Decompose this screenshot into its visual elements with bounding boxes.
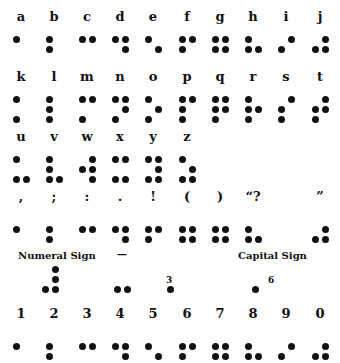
braille-cell — [77, 333, 97, 363]
braille-character: . — [105, 190, 135, 246]
braille-dot-4 — [222, 36, 229, 43]
braille-character: 0 — [305, 307, 335, 363]
braille-cell — [243, 36, 263, 66]
braille-dot-3 — [46, 116, 53, 123]
apostrophe-braille — [165, 266, 185, 296]
braille-cell — [11, 36, 31, 66]
braille-cell — [177, 36, 197, 66]
braille-dot-6 — [189, 176, 196, 183]
braille-dot-1 — [212, 36, 219, 43]
braille-dot-5 — [189, 343, 196, 350]
capital-number-label: 6 — [268, 275, 274, 285]
braille-dot-1 — [13, 96, 20, 103]
braille-dot-3 — [167, 286, 174, 293]
braille-dot-5 — [222, 106, 229, 113]
braille-character: , — [6, 190, 36, 246]
character-label: 2 — [39, 307, 69, 321]
braille-dot-3 — [212, 236, 219, 243]
braille-dot-3 — [46, 236, 53, 243]
character-label: i — [271, 10, 301, 24]
character-label — [271, 190, 301, 204]
character-label: h — [238, 10, 268, 24]
character-label: s — [271, 70, 301, 84]
braille-cell — [243, 216, 263, 246]
braille-dot-2 — [312, 46, 319, 53]
braille-dot-5 — [322, 106, 329, 113]
braille-dot-5 — [255, 106, 262, 113]
braille-dot-3 — [278, 353, 285, 360]
braille-dot-2 — [212, 46, 219, 53]
braille-dot-1 — [13, 36, 20, 43]
character-label: ; — [39, 190, 69, 204]
character-label: : — [72, 190, 102, 204]
braille-dot-4 — [155, 156, 162, 163]
braille-dot-5 — [89, 343, 96, 350]
braille-dot-2 — [145, 226, 152, 233]
braille-dot-3 — [13, 176, 20, 183]
braille-cell — [240, 266, 260, 296]
braille-cell — [110, 36, 130, 66]
braille-dot-2 — [79, 226, 86, 233]
braille-cell — [44, 216, 64, 246]
character-label: k — [6, 70, 36, 84]
character-label: 5 — [138, 307, 168, 321]
braille-dot-6 — [122, 236, 129, 243]
braille-character: g — [205, 10, 235, 66]
braille-character: “? — [238, 190, 268, 246]
braille-dot-1 — [212, 96, 219, 103]
braille-dot-3 — [245, 116, 252, 123]
braille-dot-2 — [212, 106, 219, 113]
character-label: 1 — [6, 307, 36, 321]
braille-dot-6 — [322, 236, 329, 243]
braille-cell — [77, 156, 97, 186]
braille-cell — [11, 333, 31, 363]
braille-dot-2 — [212, 343, 219, 350]
braille-dot-4 — [288, 96, 295, 103]
braille-dot-3 — [245, 236, 252, 243]
braille-dot-1 — [112, 156, 119, 163]
braille-dot-2 — [112, 343, 119, 350]
braille-character: 4 — [105, 307, 135, 363]
braille-dot-2 — [179, 106, 186, 113]
braille-character — [271, 190, 301, 246]
character-label: r — [238, 70, 268, 84]
character-label: 0 — [305, 307, 335, 321]
braille-dot-5 — [222, 46, 229, 53]
braille-cell — [177, 156, 197, 186]
character-label: l — [39, 70, 69, 84]
braille-dot-6 — [189, 236, 196, 243]
character-label: “? — [238, 190, 268, 204]
braille-character: h — [238, 10, 268, 66]
braille-dot-3 — [145, 236, 152, 243]
braille-dot-6 — [255, 236, 262, 243]
braille-cell — [77, 216, 97, 246]
character-label: 6 — [172, 307, 202, 321]
capital-sign-braille — [240, 266, 260, 296]
braille-dot-5 — [322, 343, 329, 350]
braille-dot-1 — [13, 156, 20, 163]
braille-dot-5 — [222, 343, 229, 350]
braille-dot-6 — [89, 176, 96, 183]
braille-dot-5 — [222, 226, 229, 233]
capital-sign-label: Capital Sign — [238, 250, 307, 261]
character-label: d — [105, 10, 135, 24]
character-label: u — [6, 130, 36, 144]
braille-cell — [44, 96, 64, 126]
character-label: t — [305, 70, 335, 84]
braille-dot-5 — [89, 166, 96, 173]
braille-signs-section: Numeral Sign — Capital Sign 3 6 — [0, 250, 340, 310]
braille-character: e — [138, 10, 168, 66]
numeral-sign-braille — [40, 266, 60, 296]
character-label: f — [172, 10, 202, 24]
braille-dot-6 — [322, 353, 329, 360]
braille-dot-5 — [189, 226, 196, 233]
braille-dot-1 — [46, 36, 53, 43]
braille-character: p — [172, 70, 202, 126]
braille-character: j — [305, 10, 335, 66]
braille-dot-3 — [179, 353, 186, 360]
braille-dot-3 — [112, 176, 119, 183]
braille-dot-1 — [46, 156, 53, 163]
character-label: m — [72, 70, 102, 84]
braille-dot-4 — [89, 156, 96, 163]
braille-dot-2 — [278, 106, 285, 113]
